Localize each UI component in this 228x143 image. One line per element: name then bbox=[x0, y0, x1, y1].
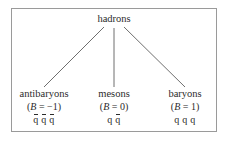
antiquark-glyph: q bbox=[41, 113, 47, 126]
quark-glyph: q bbox=[182, 113, 188, 126]
root-node-label: hadrons bbox=[97, 13, 130, 24]
antiquark-glyph: q bbox=[115, 113, 121, 126]
equals-sign: = bbox=[109, 101, 120, 112]
paren-close: ) bbox=[125, 101, 128, 112]
antiquark-glyph: q bbox=[49, 113, 55, 126]
leaf-node-baryons: baryons (B = 1) q q q bbox=[142, 88, 228, 126]
quark-glyph: q bbox=[174, 113, 180, 126]
quark-glyph: q bbox=[107, 113, 113, 126]
quark-content-baryons: q q q bbox=[142, 113, 228, 126]
antiquark-glyph: q bbox=[33, 113, 39, 126]
paren-close: ) bbox=[58, 101, 61, 112]
paren-close: ) bbox=[196, 101, 199, 112]
root-node-hadrons: hadrons bbox=[0, 13, 228, 25]
baryon-number-value: −1 bbox=[47, 101, 58, 112]
baryon-number-baryons: (B = 1) bbox=[142, 101, 228, 114]
equals-sign: = bbox=[36, 101, 47, 112]
quark-glyph: q bbox=[190, 113, 196, 126]
equals-sign: = bbox=[180, 101, 191, 112]
leaf-label-baryons: baryons bbox=[142, 88, 228, 101]
hadron-classification-figure: hadrons antibaryons (B = −1) q q q meson… bbox=[0, 0, 228, 143]
